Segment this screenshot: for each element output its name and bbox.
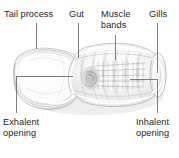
body-barrel (68, 43, 166, 107)
label-gut: Gut (69, 9, 84, 20)
inhalent-opening (150, 53, 166, 97)
gut (82, 66, 100, 90)
anatomy-figure: Tail process Gut Muscle bands Gills Exha… (0, 0, 179, 158)
label-muscle-bands: Muscle bands (101, 9, 130, 30)
label-exhalent-opening: Exhalent opening (3, 117, 39, 138)
label-inhalent-opening: Inhalent opening (136, 117, 169, 138)
label-gills: Gills (149, 9, 167, 20)
label-tail-process: Tail process (4, 9, 53, 20)
